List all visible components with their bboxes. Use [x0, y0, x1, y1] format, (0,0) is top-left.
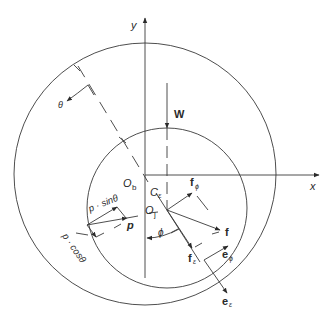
theta-arc-arrow	[67, 85, 88, 101]
bearing-center-label: O b	[123, 177, 137, 192]
svg-text:ϕ: ϕ	[195, 183, 199, 191]
fr-vector	[167, 210, 192, 248]
p-extension-line	[127, 216, 138, 218]
f-label: f	[225, 226, 229, 238]
p-tick	[114, 224, 121, 228]
p-sin-label: p · sinθ	[86, 192, 121, 215]
bearing-diagram: y x W θ O b C ε O j p · sinθ p p · cosθ …	[0, 0, 333, 329]
theta-reference-dashed-line	[78, 66, 148, 182]
svg-text:f: f	[190, 176, 194, 188]
p-cos-pointer	[76, 233, 88, 235]
phi-arc-head	[171, 229, 179, 233]
fr-label: f ε	[188, 252, 197, 265]
theta-label: θ	[58, 100, 63, 110]
svg-text:C: C	[150, 186, 158, 198]
fr-tick	[195, 243, 202, 247]
phi-label: ϕ	[158, 227, 164, 238]
er-label: e ε	[222, 295, 233, 308]
f-tick	[212, 232, 219, 234]
svg-text:f: f	[188, 252, 192, 264]
svg-text:O: O	[145, 204, 154, 216]
svg-text:ε: ε	[229, 301, 233, 308]
p-sin-dashed	[117, 207, 126, 218]
p-cos-label: p · cosθ	[60, 230, 89, 265]
svg-text:e: e	[222, 295, 228, 307]
svg-text:O: O	[123, 177, 132, 189]
theta-arc-tick	[88, 85, 94, 95]
svg-text:ϕ: ϕ	[229, 255, 233, 263]
pressure-label: p	[126, 219, 134, 231]
x-axis-label: x	[309, 180, 316, 192]
y-axis-label: y	[130, 19, 138, 31]
fphi-dashed	[197, 196, 208, 210]
load-label: W	[174, 108, 185, 120]
svg-text:ε: ε	[158, 191, 162, 200]
eccentricity-label: C ε	[150, 186, 162, 200]
journal-center-label: O j	[145, 204, 156, 219]
fphi-label: f ϕ	[190, 176, 199, 191]
svg-text:b: b	[132, 183, 137, 192]
f-vector	[167, 210, 220, 230]
svg-text:j: j	[153, 210, 156, 219]
fphi-vector	[167, 193, 192, 210]
svg-text:ε: ε	[193, 258, 197, 265]
svg-text:e: e	[222, 248, 228, 260]
p-cos-tick	[96, 233, 104, 237]
